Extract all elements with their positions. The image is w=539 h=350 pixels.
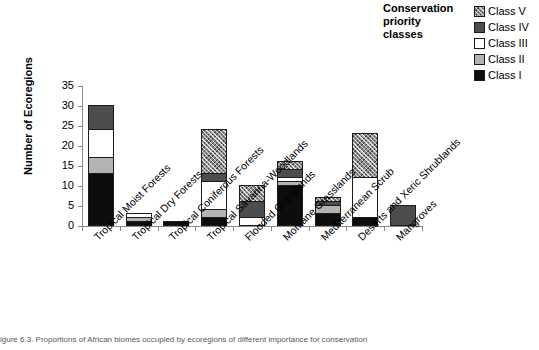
legend-label-class-ii: Class II: [488, 54, 525, 65]
bar-tropical-moist-forests[interactable]: [88, 86, 114, 226]
x-tick-mark-2: [158, 227, 159, 231]
legend-item-class-i: Class I: [474, 68, 538, 83]
x-tick-mark-1: [120, 227, 121, 231]
y-tick-label-15: 15: [44, 160, 74, 171]
legend-swatch-class-ii-icon: [474, 54, 485, 65]
legend-item-class-ii: Class II: [474, 52, 538, 67]
legend-swatch-class-i-icon: [474, 70, 485, 81]
legend-label-class-iii: Class III: [488, 38, 528, 49]
legend-label-class-iv: Class IV: [488, 22, 529, 33]
figure-caption: igure 6.3. Proportions of African biomes…: [0, 335, 539, 345]
x-tick-mark-7: [346, 227, 347, 231]
legend: Class V Class IV Class III Class II Clas…: [474, 4, 538, 84]
y-tick-label-20: 20: [44, 140, 74, 151]
y-tick-label-35: 35: [44, 80, 74, 91]
x-tick-mark-0: [82, 227, 83, 231]
x-tick-mark-3: [195, 227, 196, 231]
y-tick-label-25: 25: [44, 120, 74, 131]
legend-title-line-2: priority: [383, 15, 465, 28]
x-tick-mark-5: [271, 227, 272, 231]
legend-item-class-iii: Class III: [474, 36, 538, 51]
bar-segment-class-iv[interactable]: [88, 105, 114, 130]
bar-segment-class-iii[interactable]: [88, 129, 114, 158]
legend-title-line-1: Conservation: [383, 2, 465, 15]
bar-segment-class-v[interactable]: [352, 133, 378, 178]
legend-item-class-v: Class V: [474, 4, 538, 19]
legend-swatch-class-v-icon: [474, 6, 485, 17]
y-tick-label-30: 30: [44, 100, 74, 111]
bar-segment-class-ii[interactable]: [88, 157, 114, 174]
legend-title: Conservation priority classes: [383, 2, 465, 41]
bar-segment-class-v[interactable]: [201, 129, 227, 174]
y-tick-label-10: 10: [44, 180, 74, 191]
legend-label-class-i: Class I: [488, 70, 522, 81]
legend-swatch-class-iv-icon: [474, 22, 485, 33]
x-tick-mark-8: [384, 227, 385, 231]
x-tick-mark-6: [309, 227, 310, 231]
x-tick-mark-4: [233, 227, 234, 231]
y-tick-label-0: 0: [44, 220, 74, 231]
x-tick-mark-end: [422, 227, 423, 231]
legend-item-class-iv: Class IV: [474, 20, 538, 35]
legend-label-class-v: Class V: [488, 6, 526, 17]
y-tick-label-5: 5: [44, 200, 74, 211]
legend-title-line-3: classes: [383, 28, 465, 41]
legend-swatch-class-iii-icon: [474, 38, 485, 49]
y-axis-title: Number of Ecoregions: [22, 36, 34, 196]
chart-figure: Conservation priority classes Class V Cl…: [0, 0, 539, 350]
